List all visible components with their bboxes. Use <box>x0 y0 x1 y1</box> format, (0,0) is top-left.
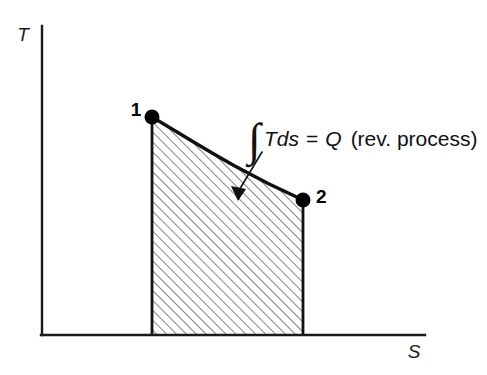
state-2-label: 2 <box>316 186 327 207</box>
state-2-marker <box>296 193 311 208</box>
state-1-marker <box>145 110 160 125</box>
annotation-group: ∫ Tds = Q (rev. process) <box>245 114 477 168</box>
y-axis-label: T <box>17 24 30 45</box>
process-qualifier-label: (rev. process) <box>351 127 478 150</box>
heat-quantity-label: Q <box>325 127 341 150</box>
diagram-canvas: T S 1 2 ∫ Tds = Q (rev. process) <box>0 0 487 375</box>
x-axis-label: S <box>408 341 421 362</box>
equals-sign: = <box>306 127 318 150</box>
integral-symbol: ∫ <box>245 114 263 168</box>
state-1-label: 1 <box>131 99 142 120</box>
ts-diagram-figure: T S 1 2 ∫ Tds = Q (rev. process) <box>0 0 487 375</box>
integrand-label: Tds <box>264 127 300 150</box>
